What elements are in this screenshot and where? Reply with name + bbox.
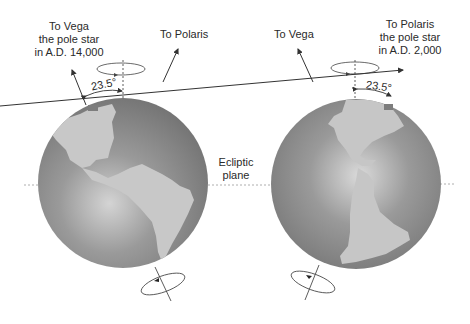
left-arrow-to-polaris bbox=[163, 49, 178, 82]
left-vega-line2: the pole star bbox=[34, 33, 104, 46]
left-vega-line3: in A.D. 14,000 bbox=[34, 46, 104, 59]
right-polaris-line2: the pole star bbox=[376, 31, 444, 44]
left-globe bbox=[38, 98, 208, 268]
left-top-rotation-ellipse bbox=[97, 63, 145, 75]
right-bottom-rotation-ellipse bbox=[289, 267, 338, 298]
right-globe bbox=[271, 99, 441, 269]
right-polaris-line3: in A.D. 2,000 bbox=[376, 44, 444, 57]
left-vega-line1: To Vega bbox=[34, 20, 104, 33]
right-arrow-to-vega bbox=[298, 49, 313, 82]
left-bottom-axis bbox=[155, 267, 171, 301]
left-vega-label: To Vega the pole star in A.D. 14,000 bbox=[34, 20, 104, 59]
right-polaris-label: To Polaris the pole star in A.D. 2,000 bbox=[376, 18, 444, 57]
ecliptic-label-line1: Ecliptic bbox=[214, 156, 258, 169]
right-bottom-axis bbox=[305, 265, 319, 300]
right-polaris-line1: To Polaris bbox=[376, 18, 444, 31]
right-vega-label: To Vega bbox=[274, 28, 314, 41]
ecliptic-label-line2: plane bbox=[214, 169, 258, 182]
ecliptic-plane-label: Ecliptic plane bbox=[214, 156, 258, 182]
left-polaris-label: To Polaris bbox=[160, 28, 208, 41]
